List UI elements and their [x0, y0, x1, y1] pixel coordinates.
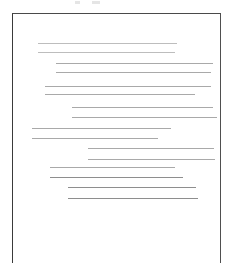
- text-line: [88, 148, 214, 149]
- text-line: [68, 187, 196, 188]
- text-line: [72, 117, 217, 118]
- text-line: [56, 72, 211, 73]
- text-line: [38, 43, 177, 44]
- text-line: [56, 63, 213, 64]
- text-line: [50, 167, 175, 168]
- text-line-block: [0, 0, 239, 275]
- text-line: [38, 52, 175, 53]
- text-line: [72, 107, 213, 108]
- text-line: [32, 128, 171, 129]
- text-line: [45, 86, 211, 87]
- text-line: [50, 177, 183, 178]
- text-line: [68, 198, 198, 199]
- text-line: [88, 159, 215, 160]
- text-line: [32, 138, 158, 139]
- scanned-document-page: [0, 0, 239, 275]
- text-line: [45, 94, 195, 95]
